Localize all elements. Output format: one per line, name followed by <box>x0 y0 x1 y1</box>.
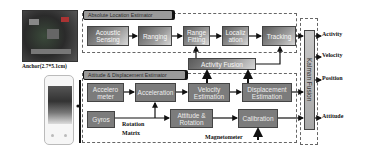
connection-arrows <box>0 0 365 152</box>
